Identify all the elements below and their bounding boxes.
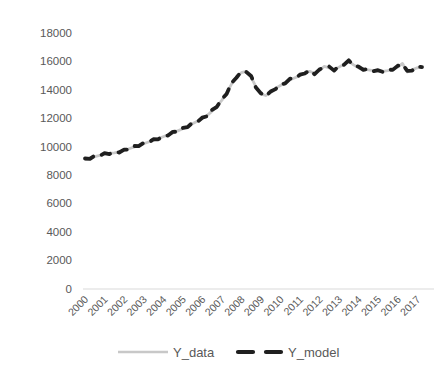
chart-container: 0200040006000800010000120001400016000180… bbox=[0, 0, 445, 381]
y-tick-label: 10000 bbox=[40, 141, 72, 153]
y-tick-label: 6000 bbox=[46, 197, 72, 209]
y-tick-label: 14000 bbox=[40, 84, 72, 96]
x-tick-label: 2000 bbox=[65, 293, 90, 318]
x-tick-label: 2007 bbox=[202, 293, 227, 318]
plot-area bbox=[83, 28, 434, 289]
y-tick-label: 2000 bbox=[46, 254, 72, 266]
x-tick-label: 2011 bbox=[281, 293, 306, 318]
x-tick-label: 2009 bbox=[241, 293, 266, 318]
x-tick-label: 2005 bbox=[163, 293, 188, 318]
x-tick-label: 2008 bbox=[222, 293, 247, 318]
x-tick-label: 2012 bbox=[300, 293, 325, 318]
y-axis-tick-labels: 0200040006000800010000120001400016000180… bbox=[40, 27, 72, 295]
y-tick-label: 4000 bbox=[46, 226, 72, 238]
legend-label-y-data: Y_data bbox=[173, 345, 215, 360]
y-tick-label: 16000 bbox=[40, 55, 72, 67]
x-tick-label: 2015 bbox=[358, 293, 383, 318]
x-tick-label: 2004 bbox=[144, 293, 169, 318]
x-axis-tick-labels: 2000200120022003200420052006200720082009… bbox=[65, 293, 422, 318]
x-tick-label: 2017 bbox=[398, 293, 423, 318]
legend-label-y-model: Y_model bbox=[288, 345, 339, 360]
y-tick-label: 8000 bbox=[46, 169, 72, 181]
x-tick-label: 2003 bbox=[124, 293, 149, 318]
x-tick-label: 2016 bbox=[378, 293, 403, 318]
x-tick-label: 2006 bbox=[183, 293, 208, 318]
chart-svg: 0200040006000800010000120001400016000180… bbox=[0, 0, 445, 381]
x-tick-label: 2014 bbox=[339, 293, 364, 318]
x-tick-label: 2002 bbox=[105, 293, 130, 318]
legend: Y_data Y_model bbox=[118, 345, 339, 360]
x-tick-label: 2013 bbox=[319, 293, 344, 318]
y-tick-label: 18000 bbox=[40, 27, 72, 39]
y-tick-label: 12000 bbox=[40, 112, 72, 124]
x-tick-label: 2010 bbox=[261, 293, 286, 318]
x-tick-label: 2001 bbox=[85, 293, 110, 318]
y-tick-label: 0 bbox=[66, 283, 72, 295]
